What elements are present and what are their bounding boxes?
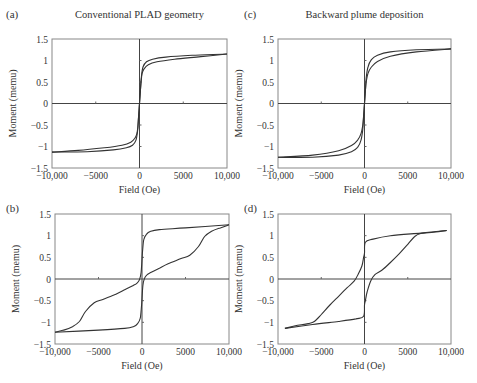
x-tick-label: −10,000	[39, 347, 71, 357]
x-tick-label: 5000	[174, 171, 193, 181]
x-tick-label: −5000	[84, 171, 109, 181]
y-axis-title: Moment (memu)	[233, 245, 245, 313]
x-tick-label: −10,000	[36, 171, 68, 181]
x-tick-label: 5000	[176, 347, 195, 357]
x-tick-label: 0	[362, 347, 367, 357]
y-tick-label: 1.5	[262, 210, 274, 220]
panel-d: (d)1.510.50−0.5−1−1.5−10,000−50000500010…	[233, 202, 464, 372]
y-tick-label: 1.5	[39, 210, 51, 220]
y-axis-title: Moment (memu)	[7, 69, 19, 137]
y-tick-label: −1	[264, 318, 274, 328]
y-tick-label: −1	[264, 142, 274, 152]
x-tick-label: 10,000	[214, 171, 240, 181]
x-tick-label: 10,000	[216, 347, 242, 357]
panel-letter: (c)	[244, 8, 257, 21]
x-tick-label: 0	[140, 347, 145, 357]
y-tick-label: 0.5	[262, 78, 274, 88]
y-tick-label: 0	[269, 99, 274, 109]
y-axis-title: Moment (memu)	[233, 69, 245, 137]
x-tick-label: −10,000	[262, 171, 294, 181]
panel-b: (b)1.510.50−0.5−1−1.5−10,000−50000500010…	[6, 202, 242, 372]
x-tick-label: −5000	[309, 347, 334, 357]
x-tick-label: 5000	[398, 347, 417, 357]
y-axis-title: Moment (memu)	[10, 245, 22, 313]
panel-letter: (b)	[6, 202, 19, 215]
panel-c: (c)Backward plume deposition1.510.50−0.5…	[233, 8, 464, 196]
x-axis-title: Field (Oe)	[119, 184, 160, 196]
y-tick-label: −1	[38, 142, 48, 152]
y-tick-label: −0.5	[257, 121, 274, 131]
figure-canvas: (a)Conventional PLAD geometry1.510.50−0.…	[0, 0, 477, 383]
x-tick-label: 5000	[398, 171, 417, 181]
x-axis-title: Field (Oe)	[344, 184, 385, 196]
y-tick-label: 0.5	[39, 253, 51, 263]
y-tick-label: −0.5	[31, 121, 48, 131]
y-tick-label: 0.5	[36, 78, 48, 88]
x-tick-label: 10,000	[438, 347, 464, 357]
panel-title: Backward plume deposition	[306, 9, 425, 20]
panel-letter: (d)	[244, 202, 257, 215]
x-tick-label: −5000	[86, 347, 111, 357]
x-tick-label: 0	[362, 171, 367, 181]
x-tick-label: −5000	[309, 171, 334, 181]
panel-title: Conventional PLAD geometry	[75, 9, 205, 20]
y-tick-label: 1.5	[262, 35, 274, 45]
y-tick-label: 1	[269, 231, 274, 241]
panel-letter: (a)	[6, 8, 19, 21]
y-tick-label: 0	[43, 99, 48, 109]
y-tick-label: 0	[269, 275, 274, 285]
x-tick-label: −10,000	[262, 347, 294, 357]
y-tick-label: 1	[43, 56, 48, 66]
x-tick-label: 0	[137, 171, 142, 181]
x-tick-label: 10,000	[438, 171, 464, 181]
panel-a: (a)Conventional PLAD geometry1.510.50−0.…	[6, 8, 240, 196]
y-tick-label: 1.5	[36, 35, 48, 45]
y-tick-label: −0.5	[257, 296, 274, 306]
y-tick-label: 1	[46, 231, 51, 241]
y-tick-label: 0	[46, 275, 51, 285]
x-axis-title: Field (Oe)	[344, 360, 385, 372]
y-tick-label: −1	[41, 318, 51, 328]
y-tick-label: 0.5	[262, 253, 274, 263]
y-tick-label: 1	[269, 56, 274, 66]
x-axis-title: Field (Oe)	[121, 360, 162, 372]
y-tick-label: −0.5	[34, 296, 51, 306]
